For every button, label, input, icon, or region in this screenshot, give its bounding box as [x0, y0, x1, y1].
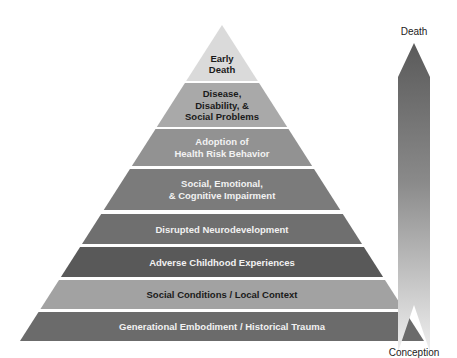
- arrow-top-label: Death: [401, 26, 428, 37]
- pyramid-level-label: Social Problems: [185, 111, 259, 122]
- pyramid-level-label: Social, Emotional,: [181, 178, 263, 189]
- pyramid: EarlyDeathDisease,Disability, &Social Pr…: [20, 25, 424, 341]
- pyramid-level-generational-embodiment-historical-trauma: Generational Embodiment / Historical Tra…: [20, 312, 424, 341]
- pyramid-level-social-emotional-cognitive-impairment: Social, Emotional,& Cognitive Impairment: [104, 169, 341, 210]
- pyramid-level-label: Early: [210, 53, 234, 64]
- pyramid-level-label: Generational Embodiment / Historical Tra…: [119, 321, 326, 332]
- pyramid-level-disrupted-neurodevelopment: Disrupted Neurodevelopment: [82, 214, 362, 244]
- pyramid-level-disease-disability-social-problems: Disease,Disability, &Social Problems: [157, 83, 287, 127]
- pyramid-level-label: Death: [209, 64, 236, 75]
- pyramid-level-label: Health Risk Behavior: [174, 148, 269, 159]
- timeline-arrow-icon: [398, 43, 430, 352]
- pyramid-level-social-conditions-local-context: Social Conditions / Local Context: [40, 280, 403, 309]
- pyramid-level-label: Adverse Childhood Experiences: [149, 257, 295, 268]
- pyramid-level-label: Disability, &: [195, 100, 249, 111]
- arrow-bottom-label: Conception: [389, 347, 440, 358]
- pyramid-level-adverse-childhood-experiences: Adverse Childhood Experiences: [61, 247, 383, 277]
- pyramid-level-early-death: EarlyDeath: [186, 25, 258, 81]
- pyramid-level-label: Social Conditions / Local Context: [147, 289, 299, 300]
- pyramid-level-label: & Cognitive Impairment: [169, 190, 276, 201]
- pyramid-level-label: Disrupted Neurodevelopment: [155, 224, 289, 235]
- pyramid-level-adoption-health-risk-behavior: Adoption ofHealth Risk Behavior: [132, 129, 312, 166]
- ace-pyramid-diagram: EarlyDeathDisease,Disability, &Social Pr…: [0, 0, 457, 358]
- pyramid-level-label: Adoption of: [195, 136, 249, 147]
- pyramid-level-label: Disease,: [203, 88, 242, 99]
